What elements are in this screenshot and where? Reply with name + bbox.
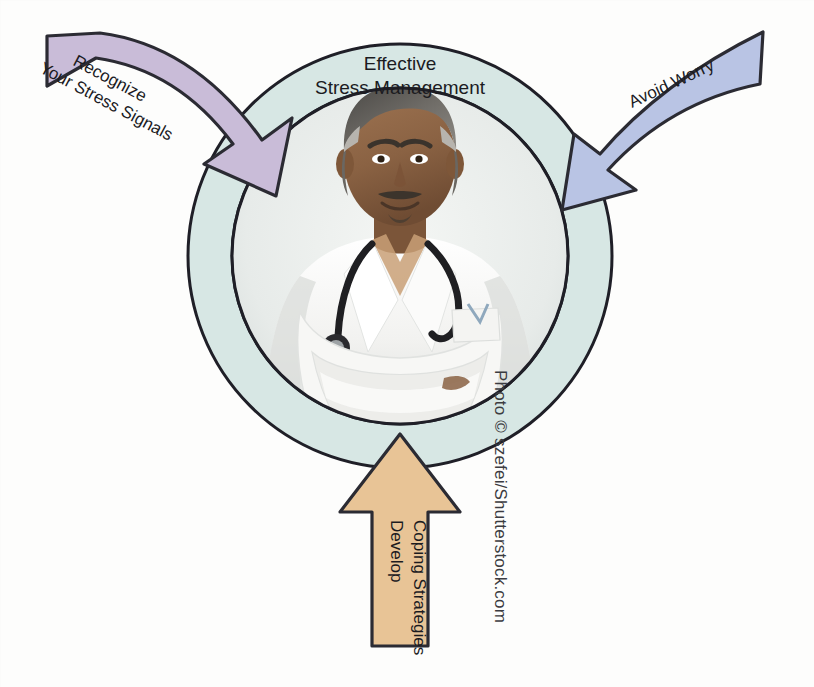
diagram-title-line2: Stress Management bbox=[315, 77, 486, 98]
figure-canvas: Effective Stress Management Recognize Yo… bbox=[0, 0, 814, 687]
photo-credit: Photo © szefei/Shutterstock.com bbox=[490, 368, 510, 670]
arrow-develop-label-line1: Develop bbox=[387, 520, 406, 582]
arrow-avoid-worry[interactable]: Avoid Worry bbox=[562, 32, 763, 210]
diagram-title-line1: Effective bbox=[364, 53, 437, 74]
arrow-develop-coping[interactable]: Develop Coping Strategies bbox=[340, 434, 460, 655]
stress-management-diagram: Effective Stress Management Recognize Yo… bbox=[0, 0, 814, 687]
arrow-develop-label-line2: Coping Strategies bbox=[410, 520, 429, 655]
